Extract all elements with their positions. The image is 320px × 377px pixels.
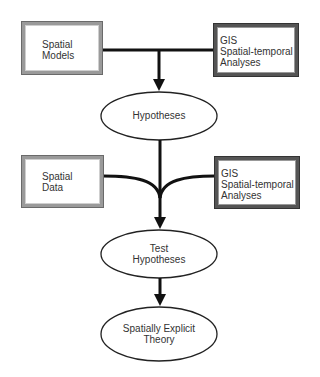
spatial-models-box: Spatial Models (22, 22, 102, 74)
gis-line3: Analyses (220, 57, 293, 68)
connector-gis-curve (160, 176, 215, 198)
gis-analyses-box-top: GIS Spatial-temporal Analyses (214, 24, 298, 76)
test-hypotheses-label: Test Hypotheses (101, 243, 217, 265)
spatial-models-line2: Models (42, 50, 74, 61)
spatial-data-box: Spatial Data (22, 156, 103, 207)
gis-line2: Spatial-temporal (220, 46, 293, 57)
arrowhead-icon (154, 217, 166, 229)
theory-line1: Spatially Explicit (101, 323, 217, 334)
theory-label: Spatially Explicit Theory (101, 323, 217, 345)
arrowhead-icon (154, 294, 166, 306)
gis-line1: GIS (220, 35, 293, 46)
spatial-data-line2: Data (42, 182, 73, 193)
gis-line3: Analyses (221, 190, 294, 201)
spatial-data-line1: Spatial (42, 171, 73, 182)
spatial-models-line1: Spatial (42, 39, 74, 50)
arrowhead-icon (153, 79, 165, 91)
connector-spatial-data-curve (103, 176, 160, 198)
gis-analyses-box-bottom: GIS Spatial-temporal Analyses (215, 157, 299, 208)
gis-line2: Spatial-temporal (221, 179, 294, 190)
test-hypotheses-line1: Test (101, 243, 217, 254)
test-hypotheses-line2: Hypotheses (101, 254, 217, 265)
hypotheses-label: Hypotheses (101, 110, 217, 121)
gis-line1: GIS (221, 168, 294, 179)
theory-line2: Theory (101, 334, 217, 345)
